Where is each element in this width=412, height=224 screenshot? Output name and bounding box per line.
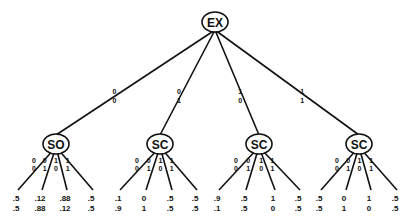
leaf-edge-label-top: 0: [335, 157, 339, 164]
payoff-player2: .5: [241, 204, 248, 213]
game-tree-diagram: SOSCSCSCEX 0000.5.501.12.8810.88.1211.5.…: [0, 0, 412, 224]
leaf-edge-label-top: 1: [66, 157, 70, 164]
edge-to-leaf: [264, 152, 300, 190]
edge-label-top: 1: [238, 88, 242, 95]
edge-label-bottom: 1: [300, 97, 304, 104]
payoff-player1: .9: [214, 194, 221, 203]
payoff-player1: .88: [59, 194, 71, 203]
node-label: SO: [47, 138, 64, 152]
leaf-edge-label-top: 0: [43, 157, 47, 164]
payoff-player2: .88: [34, 204, 46, 213]
payoff-player2: 0: [271, 204, 276, 213]
leaf-edge-label-top: 1: [158, 157, 162, 164]
leaf-edge-label-bottom: 1: [270, 165, 274, 172]
payoff-player2: 0: [367, 204, 372, 213]
payoff-player2: .12: [59, 204, 71, 213]
payoff-player2: .5: [167, 204, 174, 213]
payoff-player2: .1: [214, 204, 221, 213]
leaf-edge-label-bottom: 1: [246, 165, 250, 172]
payoff-player1: .1: [115, 194, 122, 203]
leaf-edge-label-bottom: 0: [54, 165, 58, 172]
payoff-player2: 1: [142, 204, 147, 213]
leaf-edge-label-top: 1: [259, 157, 263, 164]
leaf-edge-label-bottom: 0: [335, 165, 339, 172]
leaf-edge-label-bottom: 0: [234, 165, 238, 172]
edge-label-bottom: 0: [238, 97, 242, 104]
payoff-player1: .5: [392, 194, 399, 203]
leaf-edge-label-top: 1: [170, 157, 174, 164]
leaf-edge-label-top: 0: [346, 157, 350, 164]
payoff-player2: .5: [13, 204, 20, 213]
leaf-edge-label-top: 1: [54, 157, 58, 164]
root-node-label: EX: [207, 16, 223, 30]
leaf-edge-label-bottom: 1: [346, 165, 350, 172]
payoff-player1: 1: [271, 194, 276, 203]
node-label: SC: [351, 138, 368, 152]
payoff-player2: .5: [392, 204, 399, 213]
leaf-edge-label-top: 1: [369, 157, 373, 164]
edge-root-to-child: [160, 30, 215, 135]
leaf-edge-label-top: 0: [147, 157, 151, 164]
payoff-player1: 0: [342, 194, 347, 203]
leaf-edge-label-top: 1: [270, 157, 274, 164]
tree-edges: [18, 30, 397, 190]
edge-label-bottom: 0: [112, 97, 116, 104]
tree-labels: 0000.5.501.12.8810.88.1211.5.50100.1.901…: [13, 88, 399, 213]
leaf-edge-label-bottom: 0: [158, 165, 162, 172]
leaf-edge-label-bottom: 0: [259, 165, 263, 172]
payoff-player2: .5: [295, 204, 302, 213]
leaf-edge-label-bottom: 1: [147, 165, 151, 172]
payoff-player1: .5: [241, 194, 248, 203]
payoff-player1: .5: [192, 194, 199, 203]
leaf-edge-label-top: 1: [357, 157, 361, 164]
leaf-edge-label-bottom: 0: [32, 165, 36, 172]
leaf-edge-label-top: 0: [234, 157, 238, 164]
leaf-edge-label-bottom: 0: [135, 165, 139, 172]
leaf-edge-label-bottom: 1: [369, 165, 373, 172]
payoff-player1: .5: [295, 194, 302, 203]
payoff-player1: .12: [34, 194, 46, 203]
edge-label-top: 0: [112, 88, 116, 95]
payoff-player1: .5: [167, 194, 174, 203]
payoff-player2: .5: [316, 204, 323, 213]
payoff-player2: .5: [192, 204, 199, 213]
leaf-edge-label-bottom: 1: [170, 165, 174, 172]
edge-label-bottom: 1: [177, 97, 181, 104]
leaf-edge-label-bottom: 1: [43, 165, 47, 172]
node-label: SC: [152, 138, 169, 152]
leaf-edge-label-bottom: 0: [357, 165, 361, 172]
tree-nodes: SOSCSCSCEX: [43, 12, 372, 154]
leaf-edge-label-top: 0: [135, 157, 139, 164]
payoff-player2: .9: [115, 204, 122, 213]
payoff-player1: .5: [88, 194, 95, 203]
payoff-player1: 0: [142, 194, 147, 203]
payoff-player2: 1: [342, 204, 347, 213]
edge-label-top: 0: [177, 88, 181, 95]
payoff-player1: .5: [316, 194, 323, 203]
leaf-edge-label-top: 0: [246, 157, 250, 164]
payoff-player2: .5: [88, 204, 95, 213]
leaf-edge-label-bottom: 1: [66, 165, 70, 172]
edge-root-to-child: [56, 30, 215, 135]
payoff-player1: 1: [367, 194, 372, 203]
node-label: SC: [251, 138, 268, 152]
leaf-edge-label-top: 0: [32, 157, 36, 164]
edge-label-top: 1: [300, 88, 304, 95]
payoff-player1: .5: [13, 194, 20, 203]
